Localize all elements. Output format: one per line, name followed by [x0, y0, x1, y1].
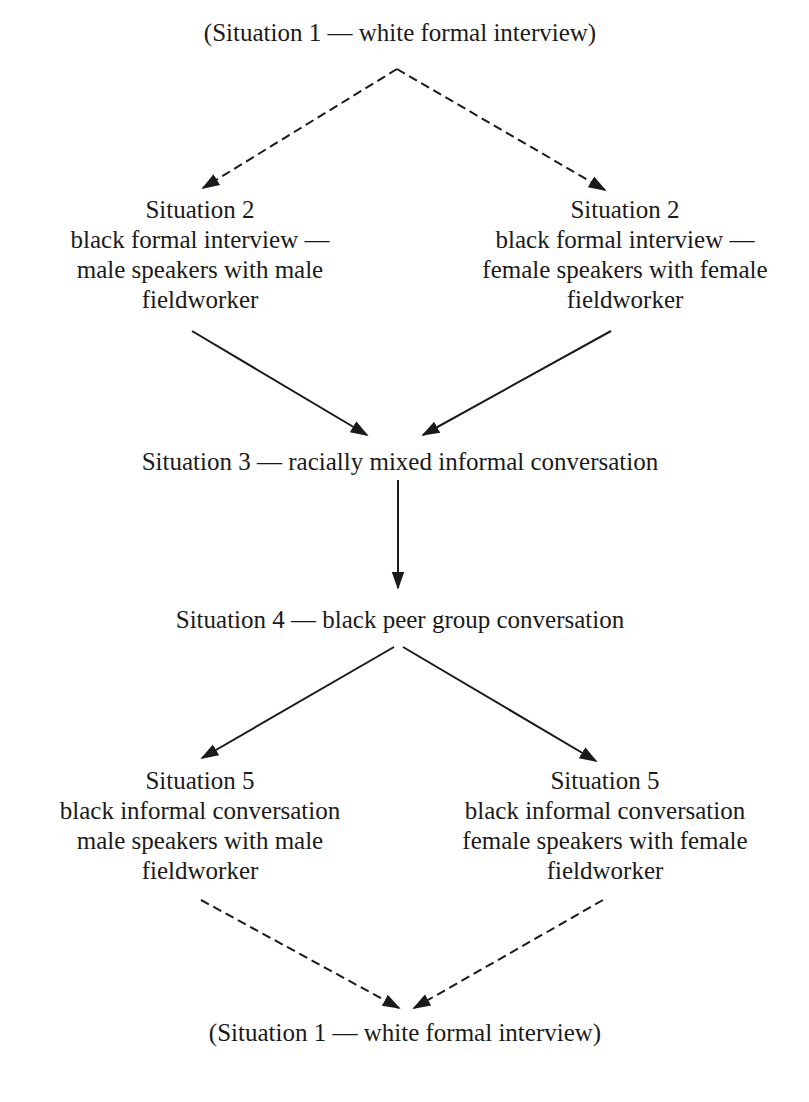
edge-s2-right-to-s3: [423, 331, 611, 435]
node-situation-3: Situation 3 — racially mixed informal co…: [100, 447, 700, 477]
node-label: male speakers with male: [25, 826, 375, 856]
node-title: Situation 2: [30, 195, 370, 225]
edge-s2-left-to-s3: [192, 331, 367, 435]
node-label: fieldworker: [25, 856, 375, 886]
node-label: female speakers with female: [425, 826, 785, 856]
node-label: Situation 3 — racially mixed informal co…: [100, 447, 700, 477]
edge-s4-to-s5-right: [403, 647, 596, 761]
node-label: fieldworker: [440, 285, 809, 315]
node-situation-2-left: Situation 2 black formal interview — mal…: [30, 195, 370, 315]
node-label: Situation 4 — black peer group conversat…: [150, 605, 650, 635]
node-situation-4: Situation 4 — black peer group conversat…: [150, 605, 650, 635]
node-situation-1-top: (Situation 1 — white formal interview): [200, 18, 600, 48]
node-label: black formal interview —: [30, 225, 370, 255]
node-label: black informal conversation: [25, 796, 375, 826]
node-label: black formal interview —: [440, 225, 809, 255]
edge-s5-right-to-s1: [414, 900, 603, 1008]
node-label: (Situation 1 — white formal interview): [205, 1018, 605, 1048]
node-situation-5-left: Situation 5 black informal conversation …: [25, 766, 375, 886]
edge-s4-to-s5-left: [202, 647, 394, 758]
edge-s1-to-s2-right: [397, 69, 605, 190]
node-situation-2-right: Situation 2 black formal interview — fem…: [440, 195, 809, 315]
node-title: Situation 5: [25, 766, 375, 796]
node-label: fieldworker: [425, 856, 785, 886]
edge-s1-to-s2-left: [203, 69, 397, 188]
node-title: Situation 2: [440, 195, 809, 225]
node-label: (Situation 1 — white formal interview): [200, 18, 600, 48]
node-situation-5-right: Situation 5 black informal conversation …: [425, 766, 785, 886]
node-title: Situation 5: [425, 766, 785, 796]
node-label: fieldworker: [30, 285, 370, 315]
node-label: female speakers with female: [440, 255, 809, 285]
node-label: black informal conversation: [425, 796, 785, 826]
node-situation-1-bottom: (Situation 1 — white formal interview): [205, 1018, 605, 1048]
node-label: male speakers with male: [30, 255, 370, 285]
diagram-edges: [0, 0, 809, 1102]
edge-s5-left-to-s1: [201, 900, 399, 1008]
